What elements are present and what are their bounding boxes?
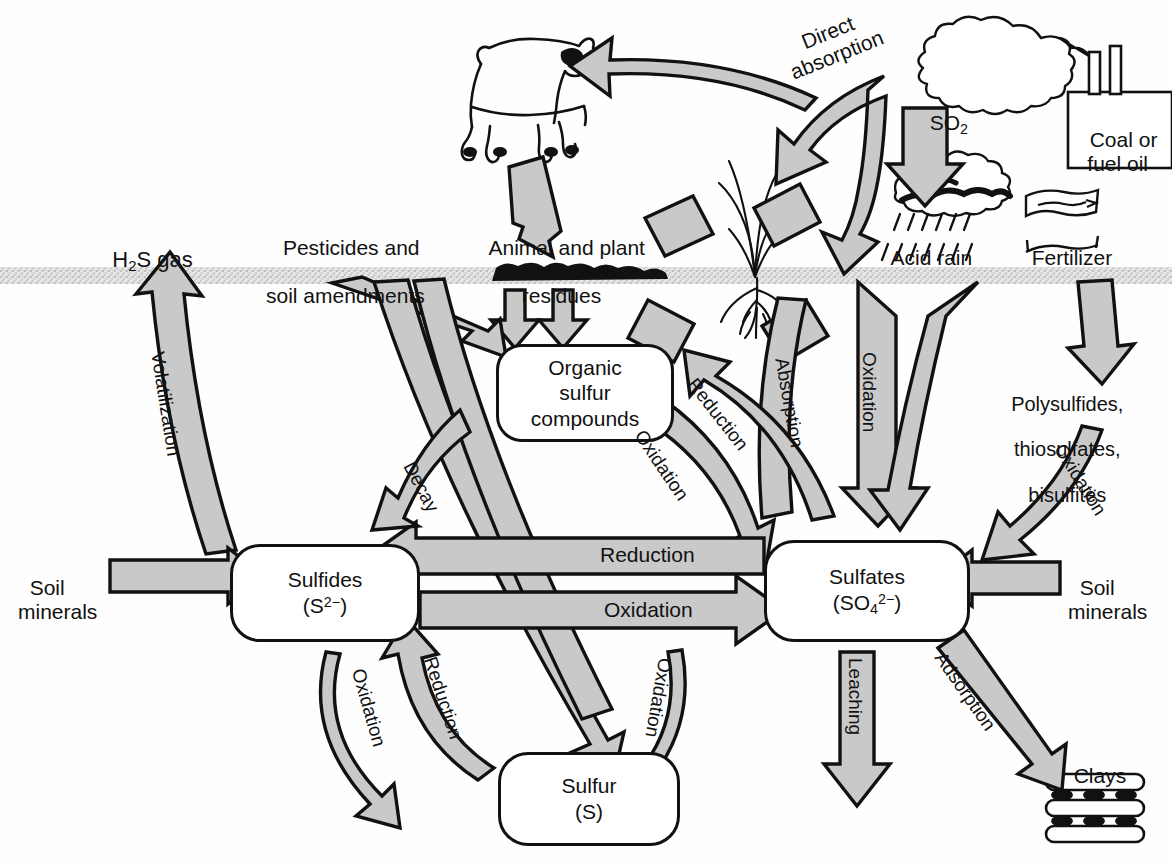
pool-sulfur-name: Sulfur (562, 774, 617, 797)
arrow-label-oxidation-mid: Oxidation (604, 598, 693, 622)
label-polysulfides-thiosulfates-bisulfites: Polysulfides, thiosulfates, bisulfites (1000, 370, 1123, 507)
label-animal-and-plant-residues: Animal and plant residues (478, 212, 645, 308)
label-clays: Clays (1062, 740, 1126, 788)
label-coal-or-fuel-oil: Coal orfuel oil (1078, 104, 1157, 176)
sulfur-cycle-diagram: H2S gas Pesticides and soil amendments A… (0, 0, 1172, 863)
pool-box-sulfides[interactable]: Sulfides (S2−) (230, 544, 420, 642)
arrow-volatilization (136, 252, 236, 554)
arrow-residue-small-1 (645, 196, 713, 256)
label-soil-minerals-left: Soilminerals (18, 552, 97, 624)
pool-sulfides-name: Sulfides (288, 568, 363, 591)
pool-sulfates-name: Sulfates (829, 565, 905, 588)
pool-organic-line1: Organic (548, 356, 622, 379)
so2-subscript: 2 (960, 121, 968, 137)
pool-box-sulfur[interactable]: Sulfur (S) (498, 752, 680, 846)
pool-sulfur-formula: (S) (575, 800, 603, 823)
label-pesticides-and-soil-amendments: Pesticides and soil amendments (266, 212, 425, 308)
arrow-adsorption (938, 630, 1066, 790)
arrow-label-reduction-mid: Reduction (600, 543, 695, 567)
arrow-label-oxidation-atmospheric: Oxidation (858, 352, 880, 432)
arrow-reduction-mid (368, 522, 764, 590)
label-so2: SO2 (918, 87, 968, 137)
arrow-atmosphere-to-left (570, 38, 816, 110)
label-fertilizer: Fertilizer (1020, 222, 1112, 270)
pool-sulfates-formula: (SO42−) (833, 591, 902, 614)
arrow-fertilizer-down (1068, 280, 1134, 384)
pool-organic-line3: compounds (531, 407, 640, 430)
label-soil-minerals-right: Soilminerals (1068, 552, 1147, 624)
arrow-oxidation-mid (420, 576, 784, 644)
pool-box-sulfates[interactable]: Sulfates (SO42−) (764, 540, 970, 642)
arrow-label-leaching: Leaching (844, 658, 866, 735)
pool-organic-line2: sulfur (559, 381, 610, 404)
label-h2s-gas: H2S gas (100, 222, 193, 274)
label-acid-rain: Acid rain (880, 222, 972, 270)
pool-sulfides-formula: (S2−) (303, 594, 347, 617)
